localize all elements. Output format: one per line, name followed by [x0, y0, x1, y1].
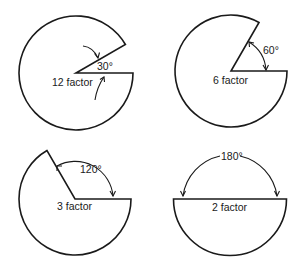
angle-arc-180-left — [183, 156, 220, 196]
angle-arc-180-right — [240, 156, 277, 196]
angle-label-120: 120° — [80, 163, 102, 175]
factor-label-3: 3 factor — [57, 200, 93, 212]
angle-label-30: 30° — [97, 60, 113, 72]
circle-with-60-degree-cut — [175, 15, 287, 127]
panel-12-factor: 30° 12 factor — [19, 16, 133, 130]
factor-label-6: 6 factor — [213, 74, 249, 86]
factor-label-2: 2 factor — [212, 201, 248, 213]
circle-with-30-degree-cut — [19, 16, 133, 130]
panel-2-factor: 180° 2 factor — [174, 150, 287, 256]
indexing-circles-diagram: 30° 12 factor 60° 6 factor 120° 3 factor… — [0, 0, 304, 266]
angle-label-60: 60° — [263, 44, 279, 56]
angle-label-180: 180° — [221, 150, 243, 162]
panel-3-factor: 120° 3 factor — [19, 151, 131, 255]
arrow-lower-icon — [95, 77, 104, 100]
factor-label-12: 12 factor — [52, 76, 93, 88]
arrow-upper-icon — [83, 46, 98, 58]
panel-6-factor: 60° 6 factor — [175, 15, 287, 127]
